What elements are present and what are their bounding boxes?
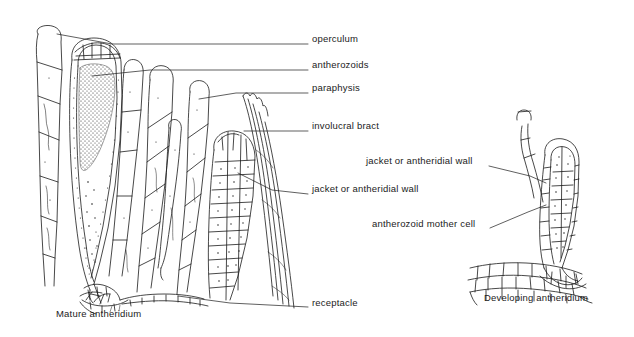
paraphysis-filament-3 — [137, 66, 173, 292]
involucral-bract — [243, 93, 294, 308]
label-antherozoid-mother-cell: antherozoid mother cell — [372, 218, 475, 229]
developing-antheridium — [517, 110, 586, 289]
antheridium-illustration — [0, 0, 634, 337]
caption-mature-antheridium: Mature antheridium — [56, 308, 141, 319]
label-involucral-bract: involucral bract — [312, 120, 379, 131]
young-antheridium — [208, 131, 255, 300]
leader-lines — [57, 34, 546, 307]
label-antherozoids: antherozoids — [312, 59, 369, 70]
leader-antherozoids — [92, 70, 308, 76]
label-paraphysis: paraphysis — [312, 82, 360, 93]
mature-antheridium — [70, 38, 122, 303]
paraphysis-filament-4 — [158, 119, 181, 280]
label-receptacle: receptacle — [312, 297, 358, 308]
label-jacket-or-antheridial-wall-left: jacket or antheridial wall — [312, 183, 419, 194]
paraphysis-filament-5 — [177, 81, 209, 294]
figure-canvas: operculum antherozoids paraphysis involu… — [0, 0, 634, 337]
caption-developing-antheridium: Developing antheridium — [484, 292, 588, 303]
label-operculum: operculum — [312, 33, 358, 44]
leader-antherozoid-mother-cell — [490, 205, 546, 228]
paraphysis-filament-1 — [36, 25, 62, 286]
leader-jacket-wall-right — [489, 166, 546, 183]
label-jacket-or-antheridial-wall-right: jacket or antheridial wall — [366, 155, 473, 166]
